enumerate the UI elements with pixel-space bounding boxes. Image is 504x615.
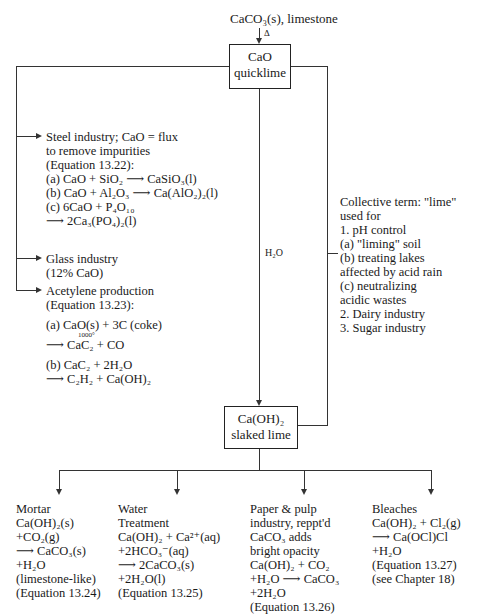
mortar-line-7: (Equation 13.24) (16, 586, 101, 600)
mortar-line-2: Ca(OH)₂(s) (16, 516, 74, 530)
lime-line-4: (a) "liming" soil (340, 237, 421, 251)
water-treatment-line-5: ⟶ 2CaCO₃(s) (118, 558, 194, 572)
water-arrow-line (259, 89, 260, 402)
steel-eq-b: (b) CaO + Al₂O₃ ⟶ Ca(AlO₂)₂(l) (46, 186, 218, 200)
mortar-line-4: ⟶ CaCO₃(s) (16, 544, 86, 558)
acetylene-arrowhead-icon (36, 287, 42, 293)
lime-line-5: (b) treating lakes (340, 251, 425, 265)
acetylene-line-2: (Equation 13.23): (46, 298, 134, 312)
lime-line-1: Collective term: "lime" (340, 195, 456, 209)
acetylene-eq-b: (b) CaC₂ + 2H₂O (46, 358, 132, 372)
quicklime-formula: CaO (230, 49, 290, 65)
steel-eq-c-product: ⟶ 2Ca₃(PO₄)₂(l) (46, 214, 136, 228)
mortar-line-5: +H₂O (16, 558, 45, 572)
paper-arrow-line (304, 470, 305, 490)
heat-symbol: Δ (264, 26, 270, 40)
lime-line-8: acidic wastes (340, 293, 406, 307)
bottom-distribution-line (59, 470, 432, 471)
water-treatment-line-7: (Equation 13.25) (118, 586, 203, 600)
steel-line-2: to remove impurities (46, 144, 150, 158)
quicklime-box: CaO quicklime (229, 44, 291, 89)
paper-line-3: CaCO₃ adds (250, 530, 312, 544)
water-treatment-line-6: +2H₂O(l) (118, 572, 166, 586)
paper-line-8: (Equation 13.26) (250, 600, 335, 614)
water-treatment-line-4: +2HCO₃⁻(aq) (118, 544, 189, 558)
mortar-line-3: +CO₂(g) (16, 530, 59, 544)
steel-line-1: Steel industry; CaO = flux (46, 130, 178, 144)
glass-line-2: (12% CaO) (46, 266, 103, 280)
steel-arrowhead-icon (36, 133, 42, 139)
lime-line-9: 2. Dairy industry (340, 307, 425, 321)
glass-line-1: Glass industry (46, 252, 118, 266)
mortar-line-6: (limestone-like) (16, 572, 96, 586)
left-branch-line (16, 66, 229, 67)
lime-uses-tick (327, 253, 338, 254)
paper-line-6: +H₂O ⟶ CaCO₃ (250, 572, 339, 586)
steel-arrow-line (16, 136, 36, 137)
bleaches-line-2: Ca(OH)₂ + Cl₂(g) (372, 516, 461, 530)
limestone-source-label: CaCO₃(s), limestone (230, 12, 338, 26)
water-treatment-line-2: Treatment (118, 516, 169, 530)
steel-eq-c: (c) 6CaO + P₄O₁₀ (46, 200, 135, 214)
bleaches-arrow-line (431, 470, 432, 490)
mortar-line-1: Mortar (16, 502, 51, 516)
glass-arrowhead-icon (36, 255, 42, 261)
acetylene-arrow-line (16, 290, 36, 291)
right-to-slaked-line (298, 425, 328, 426)
water-treatment-arrowhead-icon (174, 489, 180, 495)
mortar-arrowhead-icon (56, 489, 62, 495)
slaked-lime-name: slaked lime (225, 427, 297, 443)
bleaches-line-6: (see Chapter 18) (372, 572, 455, 586)
acetylene-line-1: Acetylene production (46, 284, 154, 298)
lime-line-2: used for (340, 209, 381, 223)
bleaches-arrowhead-icon (428, 489, 434, 495)
lime-line-10: 3. Sugar industry (340, 321, 426, 335)
acetylene-eq-a: (a) CaO(s) + 3C (coke) (46, 318, 162, 332)
water-treatment-arrow-line (177, 470, 178, 490)
paper-line-2: industry, reppt'd (250, 516, 331, 530)
steel-eq-a: (a) CaO + SiO₂ ⟶ CaSiO₃(l) (46, 172, 197, 186)
acetylene-eq-a-product: ⟶ CaC₂ + CO (46, 338, 124, 352)
water-treatment-line-1: Water (118, 502, 148, 516)
paper-line-4: bright opacity (250, 544, 320, 558)
right-branch-line (291, 66, 327, 67)
glass-arrow-line (16, 258, 36, 259)
quicklime-name: quicklime (230, 65, 290, 81)
slaked-lime-formula: Ca(OH)₂ (225, 411, 297, 427)
bleaches-line-1: Bleaches (372, 502, 417, 516)
bleaches-line-3: ⟶ Ca(OCl)Cl (372, 530, 448, 544)
water-treatment-line-3: Ca(OH)₂ + Ca²⁺(aq) (118, 530, 220, 544)
slaked-lime-box: Ca(OH)₂ slaked lime (224, 406, 298, 449)
bleaches-line-4: +H₂O (372, 544, 401, 558)
water-label: H₂O (265, 246, 283, 260)
paper-line-7: +2H₂O (250, 586, 286, 600)
paper-line-5: Ca(OH)₂ + CO₂ (250, 558, 330, 572)
slaked-down-line (259, 449, 260, 470)
mortar-arrow-line (59, 470, 60, 490)
acetylene-eq-b-product: ⟶ C₂H₂ + Ca(OH)₂ (46, 372, 151, 386)
lime-line-3: 1. pH control (340, 223, 406, 237)
paper-line-1: Paper & pulp (250, 502, 317, 516)
lime-line-6: affected by acid rain (340, 265, 442, 279)
right-vertical-line (327, 66, 328, 426)
paper-arrowhead-icon (301, 489, 307, 495)
lime-line-7: (c) neutralizing (340, 279, 417, 293)
steel-line-3: (Equation 13.22): (46, 158, 134, 172)
bleaches-line-5: (Equation 13.27) (372, 558, 457, 572)
